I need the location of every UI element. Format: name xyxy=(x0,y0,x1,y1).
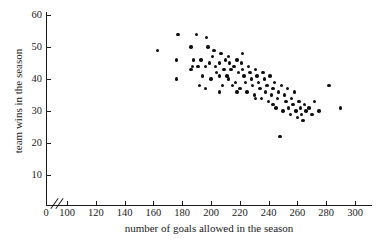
data-point xyxy=(304,109,307,112)
x-tick-label: 180 xyxy=(167,207,197,218)
y-tick xyxy=(47,15,51,16)
y-tick xyxy=(47,175,51,176)
data-point xyxy=(238,87,241,90)
data-point xyxy=(280,84,283,87)
data-point xyxy=(204,65,207,68)
data-point xyxy=(209,77,212,80)
data-point xyxy=(258,87,261,90)
data-point xyxy=(291,103,294,106)
data-point xyxy=(234,81,237,84)
data-point xyxy=(189,68,192,71)
x-tick xyxy=(67,201,68,205)
data-point xyxy=(228,61,231,64)
data-point xyxy=(206,45,209,48)
data-point xyxy=(156,49,159,52)
x-tick-label: 240 xyxy=(254,207,284,218)
data-point xyxy=(254,97,257,100)
data-point xyxy=(300,113,303,116)
data-point xyxy=(268,74,271,77)
data-point xyxy=(297,100,300,103)
y-tick-label: 60 xyxy=(16,10,42,20)
data-point xyxy=(242,74,245,77)
data-point xyxy=(218,61,221,64)
x-tick-label: 280 xyxy=(311,207,341,218)
y-tick xyxy=(47,79,51,80)
data-point xyxy=(339,106,342,109)
data-point xyxy=(231,84,234,87)
data-point xyxy=(195,33,198,36)
data-point xyxy=(255,74,258,77)
y-tick xyxy=(47,47,51,48)
data-point xyxy=(222,68,225,71)
data-point xyxy=(267,100,270,103)
data-point xyxy=(218,90,221,93)
scatter-plot-figure: 102030405060 010012014016018020022024026… xyxy=(0,0,390,239)
data-point xyxy=(201,74,204,77)
data-point xyxy=(289,113,292,116)
data-point xyxy=(284,100,287,103)
data-point xyxy=(278,135,281,138)
data-point xyxy=(235,58,238,61)
data-point xyxy=(303,103,306,106)
data-point xyxy=(263,77,266,80)
data-point xyxy=(241,68,244,71)
data-point xyxy=(281,109,284,112)
data-point xyxy=(277,90,280,93)
x-tick xyxy=(240,201,241,205)
data-point xyxy=(251,84,254,87)
data-point xyxy=(271,103,274,106)
data-point xyxy=(204,87,207,90)
data-point xyxy=(257,81,260,84)
x-tick xyxy=(182,201,183,205)
data-point xyxy=(198,84,201,87)
data-point xyxy=(224,58,227,61)
data-point xyxy=(244,81,247,84)
data-point xyxy=(310,113,313,116)
data-point xyxy=(205,36,208,39)
data-point xyxy=(250,77,253,80)
data-point xyxy=(276,97,279,100)
data-point xyxy=(260,97,263,100)
data-point xyxy=(227,55,230,58)
y-tick xyxy=(47,111,51,112)
data-point xyxy=(327,84,330,87)
x-tick-label: 300 xyxy=(340,207,370,218)
x-axis-line xyxy=(46,205,372,206)
data-point xyxy=(232,65,235,68)
y-axis-title: team wins in the season xyxy=(12,21,24,181)
x-tick xyxy=(211,201,212,205)
y-tick xyxy=(47,143,51,144)
data-point xyxy=(313,100,316,103)
data-point xyxy=(248,71,251,74)
x-tick-label: 160 xyxy=(138,207,168,218)
data-point xyxy=(283,93,286,96)
data-point xyxy=(247,65,250,68)
x-tick-label: 100 xyxy=(52,207,82,218)
y-axis-line xyxy=(46,12,47,206)
data-point xyxy=(245,90,248,93)
data-point xyxy=(211,55,214,58)
data-point xyxy=(270,93,273,96)
data-point xyxy=(286,87,289,90)
data-point xyxy=(317,109,320,112)
x-axis-title: number of goals allowed in the season xyxy=(46,222,372,234)
data-point xyxy=(271,87,274,90)
x-tick xyxy=(355,201,356,205)
x-tick xyxy=(269,201,270,205)
x-tick xyxy=(326,201,327,205)
data-point xyxy=(240,61,243,64)
data-point xyxy=(274,106,277,109)
x-tick xyxy=(297,201,298,205)
data-point xyxy=(192,58,195,61)
data-point xyxy=(265,84,268,87)
data-point xyxy=(296,116,299,119)
data-point xyxy=(175,58,178,61)
data-point xyxy=(287,106,290,109)
data-point xyxy=(189,45,192,48)
data-point xyxy=(294,109,297,112)
data-point xyxy=(241,52,244,55)
x-tick xyxy=(96,201,97,205)
x-tick-label: 200 xyxy=(196,207,226,218)
data-point xyxy=(301,119,304,122)
data-point xyxy=(293,90,296,93)
